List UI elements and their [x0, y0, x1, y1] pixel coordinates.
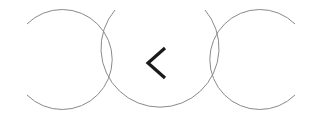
chevron-left-icon [130, 38, 180, 88]
right-circle-arc [210, 9, 295, 109]
previous-button[interactable] [130, 38, 180, 88]
left-circle-arc [27, 9, 112, 109]
carousel-nav [0, 0, 312, 129]
